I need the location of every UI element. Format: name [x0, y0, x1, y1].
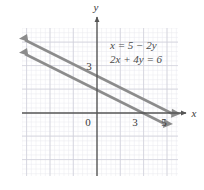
y-tick-label-3: 3	[86, 60, 92, 72]
graph-figure: x y 0 3 5 3 x = 5 − 2y 2x + 4y = 6	[0, 0, 204, 190]
line2-arrow-upper-left	[19, 48, 28, 56]
y-axis-label: y	[93, 1, 99, 13]
axes	[22, 17, 186, 176]
x-axis-label: x	[191, 107, 197, 119]
coordinate-graph: x y 0 3 5 3 x = 5 − 2y 2x + 4y = 6	[0, 0, 204, 190]
x-tick-label-3: 3	[132, 116, 138, 128]
x-tick-label-5: 5	[161, 116, 167, 128]
origin-label: 0	[85, 116, 91, 128]
equation-line2: 2x + 4y = 6	[110, 53, 163, 65]
equation-line1: x = 5 − 2y	[109, 39, 157, 51]
equation-annotations: x = 5 − 2y 2x + 4y = 6	[109, 39, 163, 65]
line1-arrow-upper-left	[19, 34, 28, 42]
data-lines	[19, 34, 181, 128]
